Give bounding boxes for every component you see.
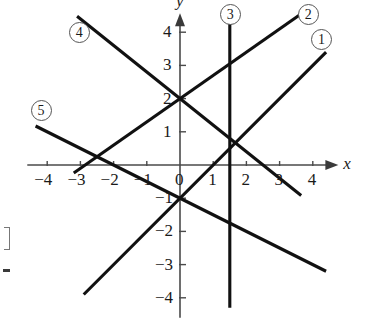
y-tick-label: −3 [155,256,173,273]
series-line-2 [74,15,300,173]
x-tick-label: 4 [308,171,317,188]
page-artifact-mark [3,269,10,272]
y-axis-arrow [175,13,185,26]
series-line-4 [77,16,301,195]
series-badge-5: 5 [31,100,52,121]
axes-layer [27,13,338,317]
x-tick-label: 1 [208,171,217,188]
y-tick-label: −2 [155,222,173,239]
x-tick-label: −4 [34,171,52,188]
x-axis-arrow [325,160,338,170]
y-tick-label: −4 [155,289,173,306]
x-tick-label: 0 [175,171,184,188]
y-tick-label: −1 [155,189,173,206]
x-tick-label: 2 [241,171,250,188]
y-tick-label: 2 [163,90,172,107]
series-badge-3: 3 [220,4,241,25]
y-tick-label: 4 [163,23,172,40]
series-line-5 [36,126,327,271]
y-tick-label: 3 [163,56,172,73]
x-tick-label: −2 [101,171,119,188]
x-tick-label: −1 [134,171,152,188]
plotted-lines-layer [36,15,327,308]
series-badge-1: 1 [311,29,332,50]
series-badge-4: 4 [69,22,90,43]
page-artifact-bracket [4,227,10,250]
y-axis-label: y [176,0,184,11]
y-tick-label: 1 [163,123,172,140]
x-axis-label: x [343,154,351,174]
x-tick-label: 3 [275,171,284,188]
x-tick-label: −3 [67,171,85,188]
series-line-1 [84,52,326,294]
series-badge-2: 2 [298,4,319,25]
